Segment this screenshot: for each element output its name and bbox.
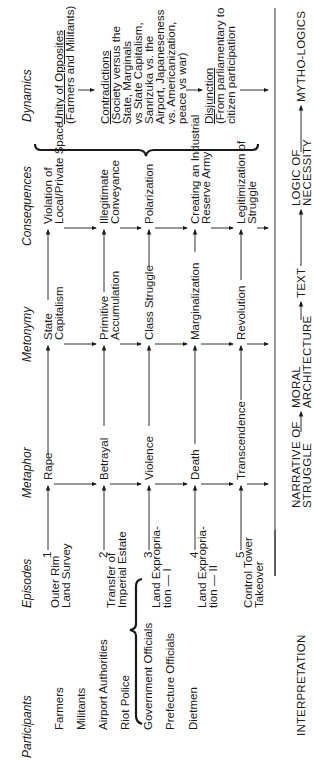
episodes-header: Episodes xyxy=(22,559,33,608)
consequence-line2: Conveyance xyxy=(110,160,121,224)
participant-airport-authorities: Airport Authorities xyxy=(98,639,109,730)
episode-title-line2: tion — I xyxy=(162,568,173,608)
metonymy-marginalization: Marginalization xyxy=(190,263,201,340)
metonymy-line2: Accumulation xyxy=(110,271,121,340)
participant-dietmen: Dietmen xyxy=(188,687,199,730)
consequence-line2: Reserve Army xyxy=(201,152,212,224)
episode-title-line2: Imperial Estate xyxy=(117,531,128,608)
consequence-line2: Local/Private Space xyxy=(54,122,65,224)
metaphor-death: Death xyxy=(190,449,201,480)
dynamics-header: Dynamics xyxy=(22,69,33,122)
metaphor-betrayal: Betrayal xyxy=(99,438,110,480)
participant-riot-police: Riot Police xyxy=(120,675,131,730)
interp-line2: STRUGGLE xyxy=(302,443,313,508)
interp-mytho-logics: MYTHO-LOGICS xyxy=(296,11,307,102)
metaphor-header: Metaphor xyxy=(22,447,33,498)
participant-farmers: Farmers xyxy=(54,687,65,730)
narrative-diagram: Participants Episodes Metaphor Metonymy … xyxy=(0,0,315,776)
consequences-header: Consequences xyxy=(22,166,33,246)
interpretation-label: INTERPRETATION xyxy=(296,635,307,736)
participant-militants: Militants xyxy=(76,688,87,730)
metonymy-header: Metonymy xyxy=(22,307,33,362)
episode-title-line2: tion — II xyxy=(208,565,219,608)
participants-header: Participants xyxy=(22,695,33,758)
disjunction-line: citizen participation xyxy=(226,26,237,124)
metaphor-violence: Violence xyxy=(144,436,155,480)
participant-government-officials: Government Officials xyxy=(143,623,154,730)
consequence-line2: Struggle xyxy=(247,181,258,224)
interp-line2: NECESSITY xyxy=(302,139,313,206)
unity-subtitle: (Farmers and Militants) xyxy=(65,6,76,124)
episode-title-line2: Land Survey xyxy=(61,543,72,608)
episode-title-line2: Takeover xyxy=(254,561,265,608)
metaphor-transcendence: Transcendence xyxy=(236,401,247,480)
consequence-polarization: Polarization xyxy=(144,164,155,224)
interp-line2: ARCHITECTURE xyxy=(302,316,313,409)
interp-text: TEXT xyxy=(296,268,307,298)
participant-prefecture-officials: Prefecture Officials xyxy=(165,633,176,730)
metaphor-rape: Rape xyxy=(43,453,54,481)
metonymy-revolution: Revolution xyxy=(236,286,247,340)
contradictions-line: peace vs war) xyxy=(177,52,188,124)
metonymy-line2: Capitalism xyxy=(54,286,65,340)
metonymy-class-struggle: Class Struggle xyxy=(144,265,155,340)
